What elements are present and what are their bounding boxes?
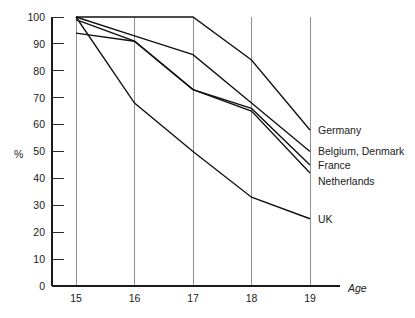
y-tick-label-10: 10 — [33, 253, 45, 265]
chart-canvas: 0102030405060708090100 1516171819 German… — [0, 0, 415, 318]
y-tick-label-100: 100 — [27, 11, 45, 23]
y-axis-title: % — [14, 148, 23, 160]
x-tick-label-15: 15 — [70, 292, 82, 304]
x-tick-label-16: 16 — [129, 292, 141, 304]
series-label-uk: UK — [318, 213, 333, 225]
y-axis — [52, 17, 64, 286]
series-label-germany: Germany — [318, 124, 362, 136]
x-tick-label-17: 17 — [187, 292, 199, 304]
y-tick-label-0: 0 — [39, 280, 45, 292]
x-axis-title: Age — [347, 282, 367, 294]
x-tick-label-19: 19 — [304, 292, 316, 304]
line-chart: 0102030405060708090100 1516171819 German… — [0, 0, 415, 318]
y-tick-label-70: 70 — [33, 92, 45, 104]
series-label-france: France — [318, 159, 351, 171]
y-tick-label-60: 60 — [33, 118, 45, 130]
series-label-belgium-denmark: Belgium, Denmark — [318, 145, 405, 157]
series-labels: GermanyBelgium, DenmarkFranceNetherlands… — [318, 124, 405, 225]
y-tick-label-40: 40 — [33, 172, 45, 184]
y-tick-label-50: 50 — [33, 145, 45, 157]
y-tick-label-80: 80 — [33, 65, 45, 77]
x-tick-labels: 1516171819 — [70, 292, 316, 304]
y-tick-label-90: 90 — [33, 38, 45, 50]
series-label-netherlands: Netherlands — [318, 175, 375, 187]
y-tick-labels: 0102030405060708090100 — [27, 11, 45, 292]
y-tick-label-20: 20 — [33, 226, 45, 238]
x-tick-label-18: 18 — [246, 292, 258, 304]
y-tick-label-30: 30 — [33, 199, 45, 211]
